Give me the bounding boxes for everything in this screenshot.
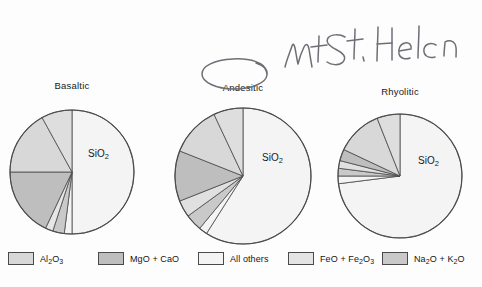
- ink-letter-t-1: [318, 36, 319, 62]
- chart-title: Basaltic: [12, 80, 132, 91]
- legend-label: Al2O3: [40, 254, 63, 264]
- legend-item: Na2O + K2O: [382, 252, 465, 265]
- ink-period: [363, 57, 364, 61]
- legend-label: All others: [230, 254, 269, 264]
- slice-label-sio2: SiO2: [88, 148, 109, 159]
- ink-letter-s: [327, 35, 345, 65]
- chart-title: Andesitic: [183, 82, 303, 93]
- pie-chart-rhyolitic: [336, 112, 464, 240]
- ink-letter-n: [444, 41, 456, 57]
- ink-letter-t-cross-1: [311, 45, 327, 47]
- pie-slice-sio2: [72, 110, 134, 234]
- ink-letter-h-bar: [377, 43, 392, 44]
- legend-item: Al2O3: [8, 252, 63, 265]
- legend-item: All others: [198, 252, 269, 265]
- legend-label: FeO + Fe2O3: [320, 254, 374, 264]
- pie-wrapper: [8, 108, 136, 236]
- legend-label: Na2O + K2O: [414, 254, 465, 264]
- legend-swatch: [198, 252, 224, 265]
- pie-wrapper: [336, 112, 464, 240]
- chart-title: Rhyolitic: [340, 86, 460, 97]
- ink-letter-l: [418, 26, 419, 58]
- legend-swatch: [98, 252, 124, 265]
- slice-label-sio2: SiO2: [418, 155, 439, 166]
- ink-letter-t-2: [354, 29, 355, 59]
- legend-label: MgO + CaO: [130, 254, 179, 264]
- legend-swatch: [382, 252, 408, 265]
- slice-label-sio2: SiO2: [262, 152, 283, 163]
- ink-letter-c: [424, 44, 436, 58]
- pie-wrapper: [173, 106, 313, 246]
- ink-letter-m: [285, 44, 312, 67]
- legend-item: FeO + Fe2O3: [288, 252, 374, 265]
- legend-item: MgO + CaO: [98, 252, 179, 265]
- figure-canvas: BasalticSiO2AndesiticSiO2RhyoliticSiO2: [0, 0, 482, 287]
- pie-chart-basaltic: [8, 108, 136, 236]
- ink-letter-h-stem1: [377, 27, 378, 61]
- legend-swatch: [288, 252, 314, 265]
- legend: Al2O3MgO + CaOAll othersFeO + Fe2O3Na2O …: [0, 248, 482, 280]
- legend-swatch: [8, 252, 34, 265]
- pie-chart-andesitic: [173, 106, 313, 246]
- ink-letter-e: [399, 43, 411, 59]
- ink-letter-t-cross-2: [347, 39, 363, 41]
